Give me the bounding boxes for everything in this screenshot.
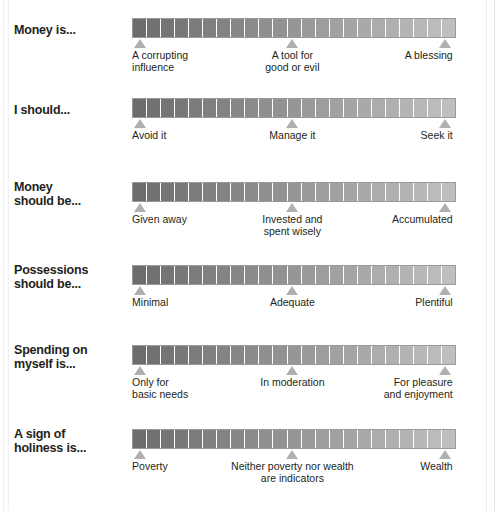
scale-segment[interactable] [372,99,386,117]
scale-segment[interactable] [414,183,428,201]
scale-segment[interactable] [133,19,147,37]
scale-segment[interactable] [147,183,161,201]
scale-segment[interactable] [386,19,400,37]
scale-segment[interactable] [245,19,259,37]
scale-segment[interactable] [147,99,161,117]
scale-bar[interactable] [132,429,456,449]
scale-segment[interactable] [386,346,400,364]
scale-segment[interactable] [231,183,245,201]
scale-segment[interactable] [203,99,217,117]
scale-segment[interactable] [288,346,302,364]
scale-segment[interactable] [400,346,414,364]
scale-segment[interactable] [344,19,358,37]
scale-segment[interactable] [358,266,372,284]
scale-segment[interactable] [273,183,287,201]
scale-segment[interactable] [400,183,414,201]
scale-segment[interactable] [358,430,372,448]
scale-segment[interactable] [442,346,455,364]
scale-segment[interactable] [288,266,302,284]
scale-segment[interactable] [231,266,245,284]
scale-segment[interactable] [217,430,231,448]
scale-segment[interactable] [428,183,442,201]
scale-segment[interactable] [147,346,161,364]
scale-segment[interactable] [428,430,442,448]
scale-segment[interactable] [344,346,358,364]
scale-segment[interactable] [133,183,147,201]
scale-segment[interactable] [358,183,372,201]
scale-segment[interactable] [288,430,302,448]
scale-segment[interactable] [147,266,161,284]
scale-segment[interactable] [428,346,442,364]
scale-segment[interactable] [372,183,386,201]
scale-segment[interactable] [288,19,302,37]
scale-segment[interactable] [316,19,330,37]
scale-segment[interactable] [358,19,372,37]
scale-segment[interactable] [175,19,189,37]
scale-segment[interactable] [442,266,455,284]
scale-segment[interactable] [330,430,344,448]
scale-segment[interactable] [133,430,147,448]
scale-segment[interactable] [189,183,203,201]
scale-segment[interactable] [161,19,175,37]
scale-segment[interactable] [189,99,203,117]
rating-scale[interactable]: PovertyNeither poverty nor wealth are in… [132,429,456,491]
scale-segment[interactable] [189,266,203,284]
scale-segment[interactable] [161,183,175,201]
scale-segment[interactable] [161,99,175,117]
scale-bar[interactable] [132,98,456,118]
scale-segment[interactable] [414,430,428,448]
scale-segment[interactable] [273,19,287,37]
scale-segment[interactable] [259,99,273,117]
scale-segment[interactable] [259,19,273,37]
scale-segment[interactable] [414,99,428,117]
scale-bar[interactable] [132,345,456,365]
rating-scale[interactable]: MinimalAdequatePlentiful [132,265,456,327]
scale-segment[interactable] [372,430,386,448]
scale-segment[interactable] [442,99,455,117]
scale-segment[interactable] [217,19,231,37]
scale-segment[interactable] [245,430,259,448]
scale-segment[interactable] [273,430,287,448]
scale-segment[interactable] [175,99,189,117]
scale-segment[interactable] [231,19,245,37]
scale-segment[interactable] [203,183,217,201]
scale-segment[interactable] [217,346,231,364]
scale-segment[interactable] [330,346,344,364]
scale-segment[interactable] [203,430,217,448]
scale-segment[interactable] [358,99,372,117]
scale-segment[interactable] [302,346,316,364]
scale-segment[interactable] [259,346,273,364]
scale-segment[interactable] [133,99,147,117]
scale-segment[interactable] [316,346,330,364]
scale-segment[interactable] [372,266,386,284]
rating-scale[interactable]: Given awayInvested and spent wiselyAccum… [132,182,456,244]
scale-segment[interactable] [400,99,414,117]
scale-segment[interactable] [316,183,330,201]
scale-segment[interactable] [316,430,330,448]
scale-segment[interactable] [245,266,259,284]
scale-segment[interactable] [161,346,175,364]
scale-segment[interactable] [259,430,273,448]
scale-segment[interactable] [217,183,231,201]
scale-segment[interactable] [316,99,330,117]
scale-segment[interactable] [259,266,273,284]
scale-segment[interactable] [217,99,231,117]
scale-segment[interactable] [316,266,330,284]
scale-segment[interactable] [175,266,189,284]
scale-segment[interactable] [273,266,287,284]
rating-scale[interactable]: A corrupting influenceA tool for good or… [132,18,456,80]
scale-segment[interactable] [442,183,455,201]
scale-segment[interactable] [245,99,259,117]
scale-segment[interactable] [414,266,428,284]
scale-segment[interactable] [386,183,400,201]
scale-segment[interactable] [400,266,414,284]
scale-segment[interactable] [442,19,455,37]
scale-segment[interactable] [344,99,358,117]
scale-segment[interactable] [302,99,316,117]
rating-scale[interactable]: Only for basic needsIn moderationFor ple… [132,345,456,407]
scale-bar[interactable] [132,182,456,202]
scale-segment[interactable] [344,430,358,448]
scale-segment[interactable] [189,346,203,364]
scale-segment[interactable] [428,19,442,37]
rating-scale[interactable]: Avoid itManage itSeek it [132,98,456,160]
